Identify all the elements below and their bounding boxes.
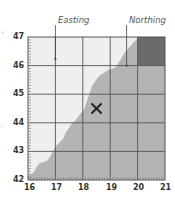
grid-reference-diagram: Easting Northing 47 46 45 44 43 42 16 17… [0,0,175,207]
y-tick-44: 44 [13,118,24,127]
y-tick-42: 42 [13,175,24,184]
y-tick-46: 46 [13,61,24,70]
x-tick-20: 20 [133,183,144,192]
x-tick-19: 19 [106,183,117,192]
y-tick-43: 43 [13,146,24,155]
grid-svg [0,0,175,207]
x-tick-17: 17 [51,183,62,192]
x-tick-21: 21 [160,183,171,192]
easting-label: Easting [58,15,90,25]
northing-label: Northing [129,15,166,25]
easting-pointer-dot [54,58,56,60]
x-tick-16: 16 [24,183,35,192]
northing-pointer-dot [126,65,128,67]
x-tick-18: 18 [78,183,89,192]
stray-mark [2,32,4,33]
y-tick-45: 45 [13,89,24,98]
y-tick-47: 47 [13,32,24,41]
highlight-square [138,37,165,66]
